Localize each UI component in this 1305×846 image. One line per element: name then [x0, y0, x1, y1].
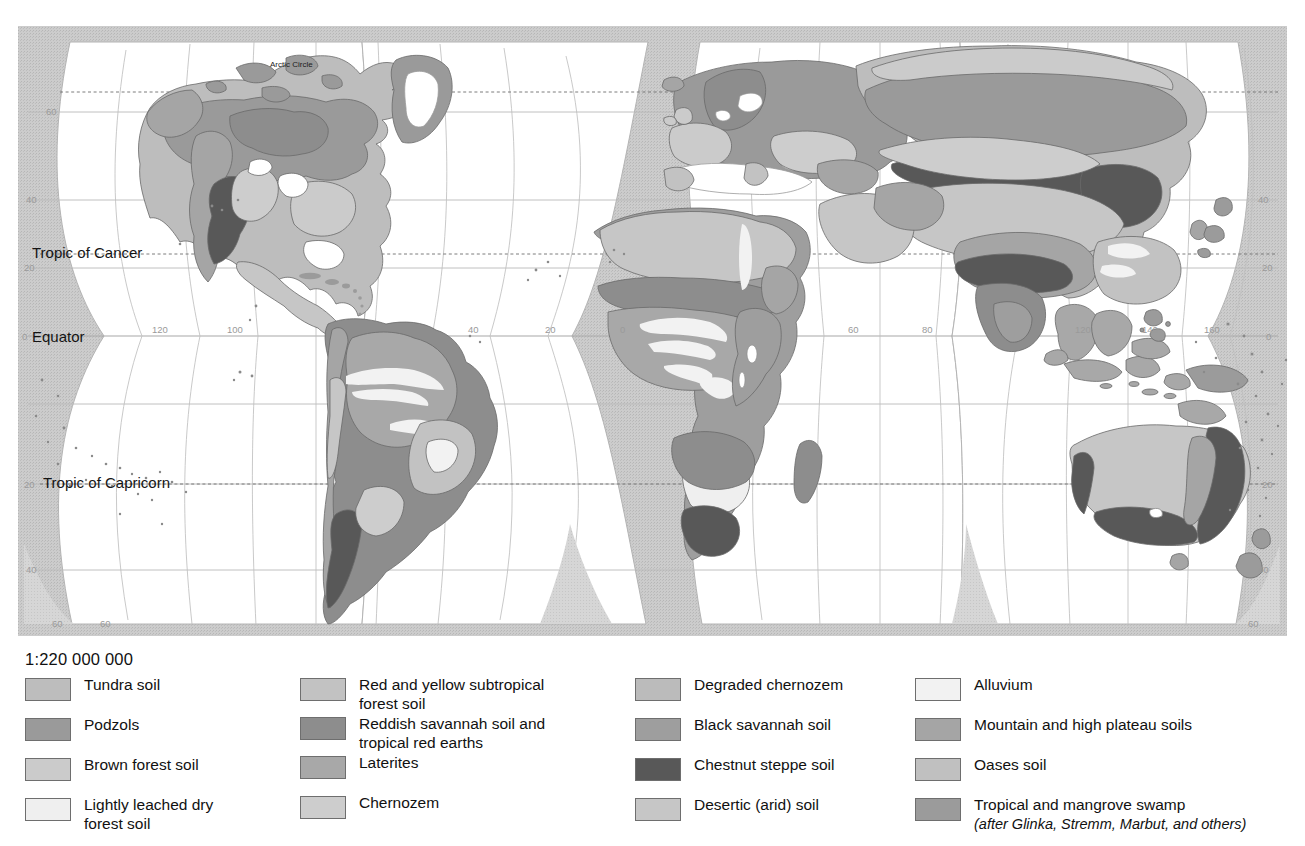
lat-label-right-40s: 40	[1258, 564, 1269, 575]
legend-label-line1: Reddish savannah soil and	[359, 715, 545, 732]
legend-item-desertic-arid-soil[interactable]: Desertic (arid) soil	[635, 794, 910, 832]
lon-label-80e: 80	[922, 324, 933, 335]
legend-label-line2: forest soil	[84, 815, 213, 834]
lat-label-left-0: 0	[22, 331, 27, 342]
legend-swatch-black-savannah-soil	[635, 718, 681, 741]
legend-swatch-lightly-leached-dry-forest-soil	[25, 798, 71, 821]
legend-swatch-chestnut-steppe-soil	[635, 758, 681, 781]
legend-label-desertic-arid-soil: Desertic (arid) soil	[694, 794, 819, 815]
lon-label-60e: 60	[848, 324, 859, 335]
legend-label-tropical-and-mangrove-swamp: Tropical and mangrove swamp (after Glink…	[974, 794, 1246, 833]
legend-label-line1: Tropical and mangrove swamp	[974, 796, 1185, 813]
legend-swatch-podzols	[25, 718, 71, 741]
legend-label-reddish-savannah-soil: Reddish savannah soil and tropical red e…	[359, 713, 545, 752]
legend-label-degraded-chernozem: Degraded chernozem	[694, 674, 843, 695]
legend-item-brown-forest-soil[interactable]: Brown forest soil	[25, 754, 295, 792]
legend-item-lightly-leached-dry-forest-soil[interactable]: Lightly leached dry forest soil	[25, 794, 295, 833]
lat-label-bottomleft-60s: 60	[100, 618, 111, 629]
legend-swatch-desertic-arid-soil	[635, 798, 681, 821]
map-legend: 1:220 000 000 Tundra soil Podzols Brown …	[0, 648, 1305, 846]
map-scale-label: 1:220 000 000	[25, 650, 133, 669]
lat-label-left-20s: 20	[24, 479, 35, 490]
legend-label-brown-forest-soil: Brown forest soil	[84, 754, 199, 775]
legend-column-3: Degraded chernozem Black savannah soil C…	[635, 674, 910, 834]
legend-label-mountain-and-high-plateau-soils: Mountain and high plateau soils	[974, 714, 1192, 735]
legend-item-chernozem[interactable]: Chernozem	[300, 792, 620, 830]
legend-label-podzols: Podzols	[84, 714, 139, 735]
lat-label-right-60s: 60	[1248, 618, 1259, 629]
legend-swatch-tundra-soil	[25, 678, 71, 701]
lat-label-left-40n: 40	[26, 194, 37, 205]
legend-swatch-laterites	[300, 756, 346, 779]
lon-label-20w: 20	[545, 324, 556, 335]
legend-item-tropical-and-mangrove-swamp[interactable]: Tropical and mangrove swamp (after Glink…	[915, 794, 1305, 833]
tropic-of-capricorn-label: Tropic of Capricorn	[43, 474, 170, 491]
equator-label: Equator	[32, 328, 85, 345]
legend-swatch-degraded-chernozem	[635, 678, 681, 701]
legend-item-tundra-soil[interactable]: Tundra soil	[25, 674, 295, 712]
legend-label-line1: Lightly leached dry	[84, 796, 213, 813]
lon-label-40w: 40	[468, 324, 479, 335]
lat-label-left-40s: 40	[26, 564, 37, 575]
legend-swatch-tropical-and-mangrove-swamp	[915, 798, 961, 821]
legend-label-chernozem: Chernozem	[359, 792, 439, 813]
legend-label-red-and-yellow-subtropical-forest-soil: Red and yellow subtropical forest soil	[359, 674, 544, 713]
legend-item-podzols[interactable]: Podzols	[25, 714, 295, 752]
legend-item-alluvium[interactable]: Alluvium	[915, 674, 1305, 712]
legend-swatch-oases-soil	[915, 758, 961, 781]
tropic-of-cancer-label: Tropic of Cancer	[32, 244, 142, 261]
lat-label-left-60s: 60	[52, 618, 63, 629]
legend-column-2: Red and yellow subtropical forest soil R…	[300, 674, 620, 832]
lat-label-right-20n: 20	[1262, 262, 1273, 273]
legend-swatch-brown-forest-soil	[25, 758, 71, 781]
legend-label-line1: Red and yellow subtropical	[359, 676, 544, 693]
legend-item-chestnut-steppe-soil[interactable]: Chestnut steppe soil	[635, 754, 910, 792]
legend-label-lightly-leached-dry-forest-soil: Lightly leached dry forest soil	[84, 794, 213, 833]
legend-label-oases-soil: Oases soil	[974, 754, 1046, 775]
legend-attribution: (after Glinka, Stremm, Marbut, and other…	[974, 815, 1246, 833]
lat-label-right-0: 0	[1266, 331, 1271, 342]
lon-label-120e: 120	[1075, 324, 1091, 335]
legend-swatch-reddish-savannah-soil	[300, 717, 346, 740]
map-panel[interactable]: 60 40 20 0 20 40 60 40 20 0 20 40 60 60 …	[0, 24, 1305, 642]
legend-label-line2: forest soil	[359, 695, 544, 714]
legend-label-black-savannah-soil: Black savannah soil	[694, 714, 831, 735]
legend-label-alluvium: Alluvium	[974, 674, 1033, 695]
lat-label-left-20n: 20	[24, 262, 35, 273]
legend-label-laterites: Laterites	[359, 752, 418, 773]
lat-label-right-20s: 20	[1262, 479, 1273, 490]
legend-swatch-mountain-and-high-plateau-soils	[915, 718, 961, 741]
legend-item-reddish-savannah-soil[interactable]: Reddish savannah soil and tropical red e…	[300, 713, 620, 752]
arctic-circle-label: Arctic Circle	[270, 60, 313, 69]
world-soils-map-figure: 60 40 20 0 20 40 60 40 20 0 20 40 60 60 …	[0, 0, 1305, 846]
legend-item-red-and-yellow-subtropical-forest-soil[interactable]: Red and yellow subtropical forest soil	[300, 674, 620, 713]
lat-label-right-40n: 40	[1258, 194, 1269, 205]
legend-label-chestnut-steppe-soil: Chestnut steppe soil	[694, 754, 834, 775]
legend-item-laterites[interactable]: Laterites	[300, 752, 620, 790]
lon-label-100w: 100	[227, 324, 243, 335]
map-canvas[interactable]: 60 40 20 0 20 40 60 40 20 0 20 40 60 60 …	[0, 24, 1305, 642]
legend-column-4: Alluvium Mountain and high plateau soils…	[915, 674, 1305, 833]
legend-swatch-chernozem	[300, 796, 346, 819]
legend-label-tundra-soil: Tundra soil	[84, 674, 160, 695]
legend-swatch-alluvium	[915, 678, 961, 701]
legend-column-1: Tundra soil Podzols Brown forest soil Li…	[25, 674, 295, 835]
lon-label-140e: 140	[1142, 324, 1158, 335]
legend-item-black-savannah-soil[interactable]: Black savannah soil	[635, 714, 910, 752]
lon-label-0: 0	[620, 324, 625, 335]
lat-label-left-60n: 60	[46, 106, 57, 117]
legend-item-degraded-chernozem[interactable]: Degraded chernozem	[635, 674, 910, 712]
lon-label-120w: 120	[152, 324, 168, 335]
lon-label-160e: 160	[1204, 324, 1220, 335]
legend-item-oases-soil[interactable]: Oases soil	[915, 754, 1305, 792]
legend-item-mountain-and-high-plateau-soils[interactable]: Mountain and high plateau soils	[915, 714, 1305, 752]
legend-swatch-red-and-yellow-subtropical-forest-soil	[300, 678, 346, 701]
legend-label-line2: tropical red earths	[359, 734, 545, 753]
